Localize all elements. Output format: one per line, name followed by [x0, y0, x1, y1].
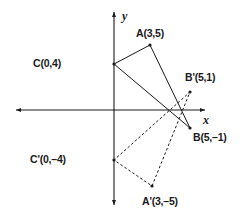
- triangle-abc-prime-outline: [114, 92, 190, 186]
- x-axis-arrow-right: [200, 108, 205, 112]
- point-label-c-prime: C'(0,–4): [30, 154, 66, 165]
- triangle-abc-prime: [112, 90, 191, 187]
- coordinate-plane-figure: A(3,5) C(0,4) B'(5,1) B(5,–1) C'(0,–4) A…: [0, 0, 248, 219]
- plot-canvas: [0, 0, 248, 219]
- point-label-b: B(5,–1): [193, 132, 227, 143]
- y-axis-arrow-bottom: [112, 200, 116, 205]
- x-axis-arrow-left: [16, 108, 21, 112]
- vertex-b: [188, 126, 191, 129]
- y-axis: [112, 12, 116, 205]
- vertex-c-prime: [112, 158, 115, 161]
- point-label-a: A(3,5): [136, 28, 164, 39]
- x-axis-label: x: [203, 114, 209, 126]
- triangle-abc: [112, 43, 191, 129]
- point-label-b-prime: B'(5,1): [185, 72, 215, 83]
- y-axis-label: y: [122, 10, 127, 22]
- vertex-b-prime: [188, 90, 191, 93]
- vertex-a-prime: [150, 184, 153, 187]
- point-label-a-prime: A'(3,–5): [142, 196, 178, 207]
- x-axis: [16, 108, 205, 112]
- y-axis-arrow-top: [112, 12, 116, 17]
- vertex-a: [148, 43, 151, 46]
- triangle-abc-outline: [114, 45, 190, 128]
- vertex-c: [112, 62, 115, 65]
- point-label-c: C(0,4): [33, 58, 61, 69]
